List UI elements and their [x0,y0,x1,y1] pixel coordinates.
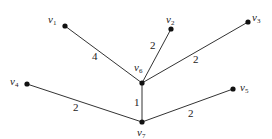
node-label-subscript: 4 [15,81,19,89]
node-label-subscript: 1 [53,19,57,27]
edge-v4-v7 [27,84,142,122]
node-v1 [62,23,67,28]
node-v4 [24,81,29,86]
node-label-v6: v6 [134,62,142,75]
node-label-v4: v4 [10,76,18,89]
node-label-subscript: 6 [139,67,143,75]
node-v7 [139,119,144,124]
node-v3 [245,19,250,24]
node-v2 [168,26,173,31]
node-label-subscript: 7 [142,132,146,139]
edge-v1-v6 [65,26,142,83]
edge-weight-v4-v7: 2 [73,102,79,113]
node-v5 [230,86,235,91]
edge-weight-v2-v6: 2 [150,40,156,51]
node-label-subscript: 2 [171,19,175,27]
edge-weight-v1-v6: 4 [92,51,98,62]
node-label-subscript: 3 [257,17,261,25]
node-label-subscript: 5 [245,87,249,95]
edge-weight-v3-v6: 2 [193,54,199,65]
node-label-v5: v5 [240,82,248,95]
edge-weight-v6-v7: 1 [134,97,140,108]
node-label-v7: v7 [137,127,145,139]
node-label-v1: v1 [48,14,56,27]
node-label-v3: v3 [252,12,260,25]
edge-weight-v7-v5: 2 [188,108,194,119]
node-label-v2: v2 [166,14,174,27]
node-v6 [139,80,144,85]
